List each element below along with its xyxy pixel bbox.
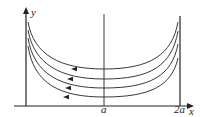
y-axis-label: y: [30, 6, 36, 18]
arrow-left-icon: [71, 67, 77, 71]
phase-diagram: y a 2a x: [0, 0, 201, 117]
trajectory-curve: [28, 22, 178, 69]
x-axis-label: x: [188, 105, 194, 117]
trajectory-curves: [28, 22, 178, 97]
arrow-left-icon: [63, 95, 69, 99]
tick-label-a: a: [101, 103, 107, 115]
arrow-left-icon: [67, 77, 73, 81]
trajectory-curve: [28, 38, 178, 88]
trajectory-curve: [28, 30, 178, 79]
y-axis-arrow-icon: [23, 7, 29, 14]
trajectory-curve: [28, 46, 178, 97]
tick-label-2a: 2a: [174, 103, 186, 115]
arrow-left-icon: [65, 86, 71, 90]
